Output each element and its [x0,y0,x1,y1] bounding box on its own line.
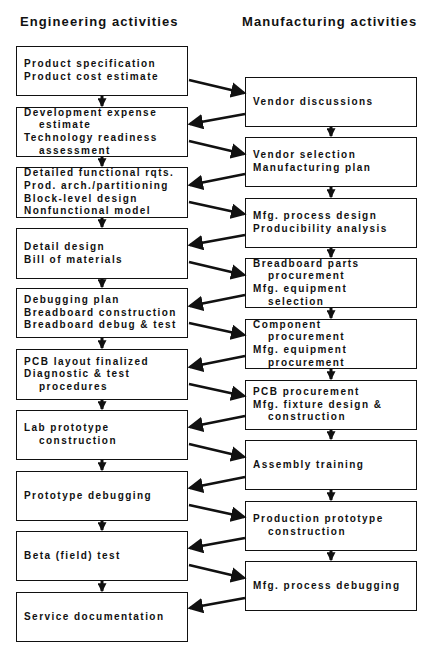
box-line: Detailed functional rqts. [24,167,187,180]
right-arrow-icon [189,202,244,214]
eng-box-beta-test: Beta (field) test [16,531,188,581]
left-arrow-icon [190,295,245,306]
left-arrow-icon [190,416,245,427]
right-arrow-icon [189,444,244,457]
box-line: procedures [24,381,187,394]
box-line: Mfg. fixture design & [253,399,416,412]
right-arrow-icon [189,323,244,335]
mfg-box-component-procurement: Component procurement Mfg. equipment pro… [245,319,417,369]
mfg-box-vendor-discussions: Vendor discussions [245,77,417,127]
box-line: construction [253,526,416,539]
box-line: Debugging plan [24,294,187,307]
box-line: construction [24,435,187,448]
mfg-box-breadboard-parts: Breadboard parts procurement Mfg. equipm… [245,258,417,308]
box-line: Mfg. equipment [253,283,416,296]
box-line: Mfg. process design [253,210,416,223]
box-line: Product cost estimate [24,71,187,84]
left-arrow-icon [190,114,245,124]
mfg-box-production-prototype: Production prototype construction [245,501,417,551]
mfg-box-process-design: Mfg. process design Producibility analys… [245,198,417,248]
box-line: construction [253,411,416,424]
eng-box-debugging-plan: Debugging plan Breadboard construction B… [16,288,188,338]
eng-box-prototype-debugging: Prototype debugging [16,471,188,521]
box-line: Vendor selection [253,149,416,162]
eng-box-pcb-layout: PCB layout finalized Diagnostic & test p… [16,349,188,400]
box-line: Producibility analysis [253,223,416,236]
box-line: PCB procurement [253,386,416,399]
box-line: Block-level design [24,193,187,206]
right-arrow-icon [189,384,244,396]
manufacturing-column-header: Manufacturing activities [242,14,417,29]
box-line: Prototype debugging [24,490,187,503]
box-line: Manufacturing plan [253,162,416,175]
right-arrow-icon [189,80,244,93]
eng-box-detailed-functional: Detailed functional rqts. Prod. arch./pa… [16,167,188,218]
box-line: Breadboard parts [253,258,416,271]
mfg-box-vendor-selection: Vendor selection Manufacturing plan [245,137,417,187]
box-line: Product specification [24,58,187,71]
box-line: Production prototype [253,513,416,526]
box-line: Service documentation [24,611,187,624]
left-arrow-icon [190,538,245,548]
box-line: procurement [253,331,416,344]
box-line: Beta (field) test [24,550,187,563]
box-line: Technology readiness [24,132,187,145]
left-arrow-icon [190,174,245,185]
left-arrow-icon [190,477,245,488]
box-line: Vendor discussions [253,96,416,109]
box-line: procurement [253,270,416,283]
box-line: Breadboard construction [24,307,187,320]
right-arrow-icon [189,505,244,517]
eng-box-detail-design: Detail design Bill of materials [16,228,188,279]
left-arrow-icon [190,598,245,608]
left-arrow-icon [190,235,245,245]
mfg-box-pcb-procurement: PCB procurement Mfg. fixture design & co… [245,380,417,430]
mfg-box-process-debugging: Mfg. process debugging [245,561,417,611]
box-line: estimate [24,119,187,132]
eng-box-service-documentation: Service documentation [16,592,188,642]
box-line: Assembly training [253,459,416,472]
box-line: PCB layout finalized [24,356,187,369]
box-line: Development expense [24,107,187,120]
eng-box-product-spec: Product specification Product cost estim… [16,46,188,96]
box-line: Breadboard debug & test [24,319,187,332]
box-line: Lab prototype [24,422,187,435]
box-line: selection [253,296,416,309]
box-line: Prod. arch./partitioning [24,180,187,193]
box-line: Bill of materials [24,254,187,267]
eng-box-lab-prototype: Lab prototype construction [16,410,188,460]
mfg-box-assembly-training: Assembly training [245,440,417,490]
right-arrow-icon [189,141,244,154]
right-arrow-icon [189,262,244,275]
box-line: Detail design [24,241,187,254]
box-line: Nonfunctional model [24,205,187,218]
left-arrow-icon [190,356,245,367]
box-line: Diagnostic & test [24,368,187,381]
box-line: assessment [24,145,187,158]
box-line: Mfg. process debugging [253,580,416,593]
right-arrow-icon [189,565,244,578]
box-line: procurement [253,357,416,370]
engineering-column-header: Engineering activities [20,14,179,29]
eng-box-dev-expense: Development expense estimate Technology … [16,107,188,157]
box-line: Component [253,319,416,332]
box-line: Mfg. equipment [253,344,416,357]
